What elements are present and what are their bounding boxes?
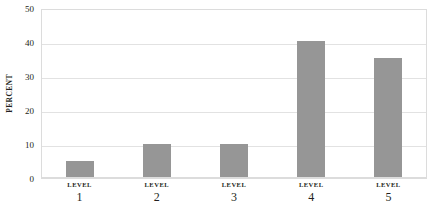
bar[interactable] bbox=[220, 144, 248, 178]
bar-slot bbox=[119, 10, 196, 178]
x-axis-tick-label-number: 4 bbox=[273, 189, 350, 205]
bar-slot bbox=[272, 10, 349, 178]
x-axis-tick-label-number: 3 bbox=[195, 189, 272, 205]
axis-baseline bbox=[42, 177, 426, 178]
y-axis-tick-label: 20 bbox=[25, 107, 34, 116]
x-axis-tick-label-word: LEVEL bbox=[273, 180, 350, 189]
bar[interactable] bbox=[297, 41, 325, 178]
bar-chart: PERCENT 01020304050 LEVEL1LEVEL2LEVEL3LE… bbox=[0, 0, 443, 221]
bar[interactable] bbox=[66, 161, 94, 178]
bar[interactable] bbox=[143, 144, 171, 178]
bar[interactable] bbox=[374, 58, 402, 178]
y-axis-tick-label: 10 bbox=[25, 141, 34, 150]
x-axis-tick-label: LEVEL1 bbox=[41, 180, 118, 218]
y-axis-tick-label: 40 bbox=[25, 39, 34, 48]
plot-area bbox=[41, 9, 427, 179]
y-axis-tick-label: 50 bbox=[25, 5, 34, 14]
y-axis-tick-label: 0 bbox=[30, 175, 35, 184]
x-axis-tick-label-word: LEVEL bbox=[41, 180, 118, 189]
bar-slot bbox=[196, 10, 273, 178]
x-axis-tick-label: LEVEL5 bbox=[350, 180, 427, 218]
y-axis-title-label: PERCENT bbox=[5, 74, 14, 113]
x-axis-tick-label-number: 5 bbox=[350, 189, 427, 205]
bar-series bbox=[42, 10, 426, 178]
x-axis-tick-label-word: LEVEL bbox=[195, 180, 272, 189]
y-axis-tick-label: 30 bbox=[25, 73, 34, 82]
x-axis-tick-label: LEVEL2 bbox=[118, 180, 195, 218]
y-axis-title: PERCENT bbox=[0, 0, 18, 186]
x-axis-tick-label-word: LEVEL bbox=[350, 180, 427, 189]
bar-slot bbox=[349, 10, 426, 178]
x-axis-tick-label: LEVEL4 bbox=[273, 180, 350, 218]
x-axis-tick-label-number: 2 bbox=[118, 189, 195, 205]
y-axis-tick-labels: 01020304050 bbox=[18, 9, 38, 179]
x-axis-tick-label-word: LEVEL bbox=[118, 180, 195, 189]
bar-slot bbox=[42, 10, 119, 178]
x-axis-tick-label: LEVEL3 bbox=[195, 180, 272, 218]
x-axis-tick-labels: LEVEL1LEVEL2LEVEL3LEVEL4LEVEL5 bbox=[41, 180, 427, 218]
x-axis-tick-label-number: 1 bbox=[41, 189, 118, 205]
